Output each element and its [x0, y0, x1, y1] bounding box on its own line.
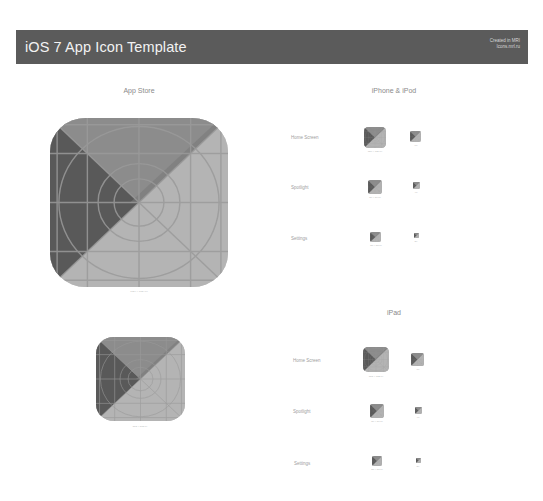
- ipad-settings-retina-caption: 58 × 58 px: [371, 468, 383, 471]
- app-store-icon-large[interactable]: [50, 118, 228, 287]
- ipad-settings-icon-retina[interactable]: [372, 456, 382, 466]
- iphone-spotlight-icon-retina[interactable]: [368, 180, 382, 194]
- ipad-spotlight-label: Spotlight: [293, 409, 311, 414]
- iphone-settings-standard-caption: 29: [415, 240, 418, 243]
- iphone-settings-icon-retina[interactable]: [370, 232, 381, 242]
- ipad-settings-icon-standard[interactable]: [416, 458, 421, 463]
- page-title: iOS 7 App Icon Template: [25, 39, 187, 55]
- app-icon-graphic: [414, 233, 419, 238]
- iphone-home-screen-label: Home Screen: [291, 135, 319, 140]
- app-icon-graphic: [370, 232, 381, 242]
- iphone-spotlight-icon-standard[interactable]: [413, 182, 420, 189]
- iphone-section-title: iPhone & iPod: [372, 87, 416, 94]
- ipad-section-title: iPad: [387, 309, 401, 316]
- app-icon-graphic: [413, 182, 420, 189]
- iphone-settings-icon-standard[interactable]: [414, 233, 419, 238]
- app-icon-graphic: [368, 180, 382, 194]
- iphone-home-screen-icon-retina[interactable]: [364, 127, 386, 148]
- app-icon-graphic: [411, 353, 424, 366]
- ipad-home-screen-standard-caption: 76: [417, 368, 420, 371]
- app-store-small-caption: 512 × 512 px: [133, 425, 148, 428]
- iphone-home-screen-retina-caption: 120 × 120 px: [368, 150, 383, 153]
- ipad-home-screen-icon-standard[interactable]: [411, 353, 424, 366]
- credit-text: Created in MRI Icons.mrl.ru: [490, 38, 520, 50]
- iphone-spotlight-label: Spotlight: [291, 185, 309, 190]
- iphone-settings-retina-caption: 58 × 58 px: [370, 244, 382, 247]
- app-store-large-caption: 1024 × 1024 px: [130, 290, 147, 293]
- ipad-home-screen-label: Home Screen: [293, 358, 321, 363]
- iphone-settings-label: Settings: [291, 236, 307, 241]
- iphone-home-screen-icon-standard[interactable]: [410, 131, 421, 142]
- credit-line-2: Icons.mrl.ru: [490, 44, 520, 50]
- iphone-spotlight-standard-caption: 40: [415, 191, 418, 194]
- app-icon-graphic: [416, 458, 421, 463]
- app-icon-graphic: [370, 404, 384, 418]
- app-store-title: App Store: [123, 87, 154, 94]
- app-icon-graphic: [372, 456, 382, 466]
- iphone-spotlight-retina-caption: 80 × 80 px: [369, 196, 381, 199]
- app-icon-graphic: [364, 127, 386, 148]
- ipad-spotlight-icon-retina[interactable]: [370, 404, 384, 418]
- header-bar: iOS 7 App Icon Template Created in MRI I…: [16, 30, 528, 64]
- ipad-home-screen-icon-retina[interactable]: [363, 347, 389, 372]
- iphone-home-screen-standard-caption: 60: [415, 144, 418, 147]
- app-icon-graphic: [363, 347, 389, 372]
- ipad-spotlight-retina-caption: 80 × 80 px: [371, 420, 383, 423]
- ipad-spotlight-icon-standard[interactable]: [415, 407, 422, 414]
- app-icon-graphic: [415, 407, 422, 414]
- app-icon-graphic: [50, 118, 228, 287]
- app-icon-graphic: [96, 337, 185, 421]
- app-store-icon-small[interactable]: [96, 337, 185, 421]
- ipad-settings-standard-caption: 29: [417, 465, 420, 468]
- ipad-spotlight-standard-caption: 40: [417, 416, 420, 419]
- app-icon-graphic: [410, 131, 421, 142]
- ipad-home-screen-retina-caption: 152 × 152 px: [369, 375, 384, 378]
- ipad-settings-label: Settings: [294, 461, 310, 466]
